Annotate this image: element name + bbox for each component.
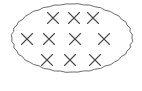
x-mark [70, 34, 81, 45]
x-mark [22, 34, 33, 45]
x-marks-layer [22, 13, 110, 66]
x-mark [65, 55, 76, 66]
x-mark-row-bottom-row [42, 55, 101, 66]
x-mark [44, 34, 55, 45]
x-mark-row-top-row [48, 13, 99, 24]
x-mark-row-middle-row [22, 34, 110, 45]
x-mark [48, 13, 59, 24]
x-mark [42, 55, 53, 66]
x-mark [88, 13, 99, 24]
x-mark [69, 13, 80, 24]
ellipse-x-marks-diagram [0, 0, 142, 91]
figure-canvas [0, 0, 142, 91]
x-mark [99, 34, 110, 45]
x-mark [90, 55, 101, 66]
